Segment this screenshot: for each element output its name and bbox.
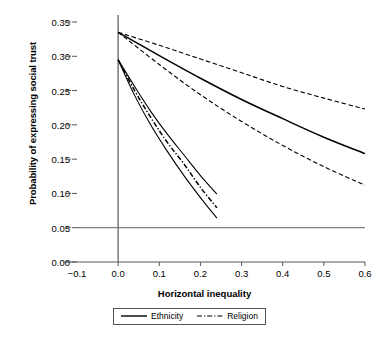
series-line-religion — [118, 60, 217, 208]
series-line-ethnicity-upper-bound — [118, 32, 365, 109]
series-line-ethnicity-lower-bound — [118, 32, 365, 185]
x-tick-label: 0.4 — [276, 268, 289, 279]
y-tick-label: 0.25 — [52, 85, 71, 96]
legend-item-ethnicity[interactable]: Ethnicity — [121, 311, 183, 321]
y-tick-label: 0.10 — [52, 188, 71, 199]
y-tick-label: 0.20 — [52, 119, 71, 130]
x-axis-title: Horizontal inequality — [0, 288, 379, 299]
x-tick-label: 0.0 — [112, 268, 125, 279]
y-tick-label: 0.35 — [52, 17, 71, 28]
x-tick-label: 0.1 — [153, 268, 166, 279]
x-tick-label: 0.6 — [358, 268, 371, 279]
x-tick-label: 0.3 — [235, 268, 248, 279]
legend-label-religion: Religion — [227, 311, 258, 321]
series-line-ethnicity — [118, 32, 365, 153]
legend-item-religion[interactable]: Religion — [197, 311, 258, 321]
y-tick-label: 0.00 — [52, 257, 71, 268]
legend-swatch-solid-icon — [121, 312, 147, 320]
legend-swatch-dashdot-icon — [197, 312, 223, 320]
x-axis-title-text: Horizontal inequality — [128, 288, 251, 299]
legend-label-ethnicity: Ethnicity — [151, 311, 183, 321]
series-line-religion-upper-bound — [118, 60, 217, 194]
x-axis-tick-labels: −0.10.00.10.20.30.40.50.6 — [77, 268, 365, 282]
series-line-religion-lower-bound — [118, 60, 217, 218]
chart-legend: Ethnicity Religion — [0, 308, 379, 325]
y-tick-label: 0.05 — [52, 222, 71, 233]
x-tick-label: 0.2 — [194, 268, 207, 279]
y-tick-label: 0.30 — [52, 51, 71, 62]
chart-figure: Probability of expressing social trust 0… — [0, 0, 379, 338]
y-tick-label: 0.15 — [52, 154, 71, 165]
x-tick-label: −0.1 — [68, 268, 87, 279]
legend-box: Ethnicity Religion — [113, 308, 266, 325]
x-tick-label: 0.5 — [317, 268, 330, 279]
y-axis-tick-labels: 0.000.050.100.150.200.250.300.35 — [36, 22, 70, 262]
